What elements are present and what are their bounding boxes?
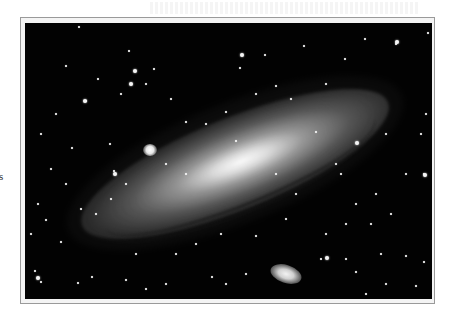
bright-star bbox=[395, 40, 399, 44]
star bbox=[385, 283, 387, 285]
star bbox=[40, 133, 42, 135]
star bbox=[325, 233, 327, 235]
star bbox=[290, 98, 292, 100]
star bbox=[37, 203, 39, 205]
star bbox=[427, 32, 429, 34]
star bbox=[95, 213, 97, 215]
star bbox=[120, 93, 122, 95]
star bbox=[295, 193, 297, 195]
star bbox=[60, 241, 62, 243]
star bbox=[34, 270, 36, 272]
star bbox=[255, 235, 257, 237]
star bbox=[275, 85, 277, 87]
star bbox=[135, 253, 137, 255]
star bbox=[364, 38, 366, 40]
star bbox=[40, 281, 42, 283]
bright-star bbox=[113, 172, 117, 176]
star bbox=[175, 253, 177, 255]
star bbox=[71, 147, 73, 149]
star bbox=[195, 243, 197, 245]
star bbox=[45, 219, 47, 221]
star bbox=[170, 98, 172, 100]
star bbox=[185, 173, 187, 175]
star bbox=[264, 54, 266, 56]
bright-star bbox=[355, 141, 359, 145]
bright-star bbox=[129, 82, 133, 86]
star bbox=[315, 131, 317, 133]
star bbox=[125, 279, 127, 281]
star bbox=[345, 258, 347, 260]
star bbox=[65, 183, 67, 185]
star bbox=[235, 140, 237, 142]
star bbox=[325, 83, 327, 85]
star bbox=[375, 193, 377, 195]
bright-star bbox=[83, 99, 87, 103]
star bbox=[245, 273, 247, 275]
star bbox=[55, 113, 57, 115]
star bbox=[91, 276, 93, 278]
star bbox=[225, 111, 227, 113]
star bbox=[110, 198, 112, 200]
star bbox=[355, 203, 357, 205]
star bbox=[125, 183, 127, 185]
star bbox=[420, 133, 422, 135]
star bbox=[128, 50, 130, 52]
companion-galaxy-lower bbox=[268, 260, 304, 287]
star bbox=[145, 288, 147, 290]
star bbox=[153, 68, 155, 70]
bright-star bbox=[133, 69, 137, 73]
bright-star bbox=[240, 53, 244, 57]
star bbox=[344, 58, 346, 60]
star bbox=[78, 26, 80, 28]
bright-star bbox=[325, 256, 329, 260]
star bbox=[145, 83, 147, 85]
star bbox=[77, 282, 79, 284]
companion-galaxy-upper bbox=[143, 144, 157, 156]
star bbox=[355, 271, 357, 273]
star bbox=[165, 283, 167, 285]
star bbox=[345, 223, 347, 225]
star bbox=[97, 78, 99, 80]
star bbox=[405, 255, 407, 257]
star bbox=[405, 173, 407, 175]
star bbox=[425, 113, 427, 115]
star bbox=[239, 67, 241, 69]
star bbox=[320, 258, 322, 260]
bright-star bbox=[36, 276, 40, 280]
star bbox=[65, 65, 67, 67]
star bbox=[109, 143, 111, 145]
star bbox=[220, 233, 222, 235]
star bbox=[370, 223, 372, 225]
star bbox=[165, 163, 167, 165]
star bbox=[275, 173, 277, 175]
star bbox=[185, 121, 187, 123]
star bbox=[30, 233, 32, 235]
star bbox=[205, 123, 207, 125]
bright-star bbox=[423, 173, 427, 177]
star bbox=[255, 93, 257, 95]
star bbox=[225, 283, 227, 285]
star bbox=[303, 45, 305, 47]
galaxy-photograph bbox=[25, 23, 432, 299]
star bbox=[365, 293, 367, 295]
star bbox=[335, 163, 337, 165]
star bbox=[385, 133, 387, 135]
star bbox=[340, 173, 342, 175]
star bbox=[415, 285, 417, 287]
star bbox=[80, 208, 82, 210]
star bbox=[390, 213, 392, 215]
bleed-through-text bbox=[150, 2, 420, 14]
star bbox=[423, 261, 425, 263]
star bbox=[285, 218, 287, 220]
star bbox=[50, 168, 52, 170]
star bbox=[380, 253, 382, 255]
star bbox=[211, 276, 213, 278]
margin-text-fragment: s bbox=[0, 171, 3, 182]
